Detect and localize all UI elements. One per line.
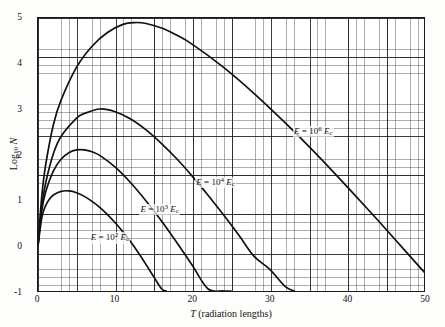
y-tick-label: -1: [14, 287, 22, 297]
annotation-energy-symbol: E: [196, 177, 202, 187]
shower-development-chart: 01020304050 -1012345 T (radiation length…: [0, 0, 445, 327]
curve-annotation-1: E = 102 Ec: [90, 232, 130, 243]
annotation-equals: =: [148, 204, 153, 214]
annotation-critical-subscript: c: [176, 207, 179, 215]
curve-layer: [38, 18, 424, 291]
annotation-exponent: 3: [165, 203, 169, 211]
annotation-equals: =: [204, 177, 209, 187]
annotation-exponent: 2: [115, 231, 119, 239]
x-tick-label: 0: [35, 294, 40, 304]
x-tick-label: 20: [187, 294, 197, 304]
y-axis-label-text: Log: [8, 154, 19, 170]
x-tick-label: 50: [420, 294, 430, 304]
annotation-exponent: 6: [318, 125, 322, 133]
curve-2: [38, 150, 231, 291]
annotation-critical-subscript: c: [329, 129, 332, 137]
x-axis-label: T (radiation lengths): [37, 308, 425, 319]
plot-area: [37, 17, 425, 292]
x-tick-label: 40: [343, 294, 353, 304]
annotation-energy-symbol: E: [91, 232, 97, 242]
annotation-base: 10: [156, 204, 165, 214]
y-tick-label: 1: [17, 195, 22, 205]
curve-annotation-3: E = 104 Ec: [195, 177, 235, 188]
annotation-equals: =: [99, 232, 104, 242]
y-axis-label-var: N: [8, 138, 19, 145]
curve-3: [38, 109, 294, 291]
y-tick-label: 0: [17, 241, 22, 251]
y-axis-label: Log10 N: [8, 124, 20, 184]
y-axis-label-subscript: 10: [12, 147, 20, 154]
curve-annotation-4: E = 106 Ec: [293, 126, 333, 137]
annotation-critical-subscript: c: [232, 180, 235, 188]
annotation-energy-symbol: E: [294, 126, 300, 136]
x-axis-label-text: (radiation lengths): [198, 308, 272, 319]
x-tick-label: 30: [265, 294, 275, 304]
x-tick-label: 10: [110, 294, 120, 304]
annotation-base: 10: [106, 232, 115, 242]
curve-annotation-2: E = 103 Ec: [139, 204, 179, 215]
annotation-critical-subscript: c: [126, 235, 129, 243]
y-tick-label: 3: [17, 104, 22, 114]
x-axis-label-symbol: T: [190, 308, 196, 319]
annotation-exponent: 4: [220, 176, 224, 184]
y-tick-label: 5: [17, 12, 22, 22]
y-tick-label: 4: [17, 58, 22, 68]
annotation-base: 10: [309, 126, 318, 136]
annotation-energy-symbol: E: [140, 204, 146, 214]
annotation-equals: =: [302, 126, 307, 136]
